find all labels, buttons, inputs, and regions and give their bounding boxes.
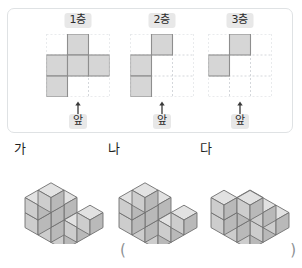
answer-blank[interactable]: ( ) xyxy=(120,240,296,262)
layer-grid-3 xyxy=(209,34,272,97)
layer-grid-2 xyxy=(131,34,194,97)
up-arrow-icon xyxy=(71,101,85,115)
figure-option-da[interactable]: 다 xyxy=(196,136,296,246)
layer-title-2: 2층 xyxy=(149,13,176,28)
cube-figure-na xyxy=(112,144,204,244)
answer-close-paren: ) xyxy=(290,240,296,260)
up-arrow-icon xyxy=(155,101,169,115)
up-arrow-icon xyxy=(233,101,247,115)
layer-title-1: 1층 xyxy=(65,13,92,28)
layer-title-3: 3층 xyxy=(227,13,254,28)
layers-panel: 1층 앞 2층 앞 3층 앞 xyxy=(7,8,293,133)
figure-option-ga[interactable]: 가 xyxy=(10,136,110,246)
cube-figure-ga xyxy=(18,144,110,244)
front-label-3: 앞 xyxy=(231,114,249,129)
layer-column-2: 2층 앞 xyxy=(120,9,204,132)
front-label-2: 앞 xyxy=(153,114,171,129)
front-label-1: 앞 xyxy=(69,114,87,129)
cube-figure-da xyxy=(204,144,296,244)
layer-column-3: 3층 앞 xyxy=(198,9,282,132)
layer-grid-1 xyxy=(47,34,110,97)
answer-open-paren: ( xyxy=(120,240,126,260)
figure-option-na[interactable]: 나 xyxy=(104,136,204,246)
layer-column-1: 1층 앞 xyxy=(36,9,120,132)
